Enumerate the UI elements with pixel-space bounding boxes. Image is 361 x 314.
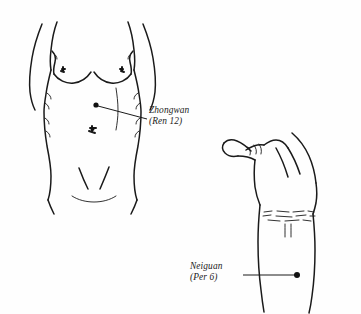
torso-right-arm <box>143 24 155 110</box>
torso-lower-belly <box>72 196 116 202</box>
wrist-crease-upper <box>264 211 314 212</box>
hand-right-edge <box>313 183 317 214</box>
zhongwan-leader-line <box>98 106 147 119</box>
torso-right-nipple-dot <box>121 68 124 71</box>
hand-illustration <box>223 133 317 313</box>
hand-palm-edge <box>254 160 260 205</box>
torso-right-rib-ticks <box>134 93 140 137</box>
hand-back-contour <box>292 133 316 183</box>
torso-illustration <box>30 22 156 214</box>
hand-finger-fold-top <box>264 140 288 148</box>
torso-right-thigh <box>131 200 137 214</box>
hand-finger-fold-1 <box>276 148 288 177</box>
acupressure-figure: Zhongwan (Ren 12) Neiguan (Per 6) <box>0 0 361 314</box>
torso-left-nipple-dot <box>62 68 65 71</box>
hand-thumb-lower <box>238 156 255 160</box>
figure-line-art <box>0 0 361 314</box>
hand-thumb-tip <box>223 143 238 156</box>
zhongwan-point-marker <box>93 102 98 107</box>
neiguan-label-name: Neiguan <box>190 261 222 272</box>
torso-right-shoulder <box>128 22 135 70</box>
torso-left-thigh <box>48 200 54 214</box>
neiguan-point-marker <box>294 272 300 278</box>
torso-left-inguinal-crease <box>79 168 88 189</box>
zhongwan-label-name: Zhongwan <box>149 105 189 116</box>
hand-finger-fold-2 <box>288 148 300 174</box>
zhongwan-label-code: (Ren 12) <box>149 116 189 127</box>
torso-left-rib-ticks <box>45 93 51 137</box>
forearm-left-edge <box>258 205 264 312</box>
wrist-crease-lower <box>268 220 311 221</box>
zhongwan-label: Zhongwan (Ren 12) <box>149 105 189 128</box>
neiguan-label: Neiguan (Per 6) <box>190 261 222 284</box>
torso-left-breast <box>54 72 91 83</box>
torso-right-inguinal-crease <box>100 167 109 189</box>
forearm-right-edge <box>309 214 315 313</box>
torso-left-shoulder <box>50 22 57 70</box>
neiguan-label-code: (Per 6) <box>190 272 222 283</box>
torso-right-breast <box>94 72 131 83</box>
annotation-layer <box>93 102 300 278</box>
torso-left-arm <box>30 24 42 110</box>
wrist-crease-mid <box>263 215 315 217</box>
torso-midline <box>116 88 118 130</box>
torso-navel-dot <box>91 127 95 131</box>
